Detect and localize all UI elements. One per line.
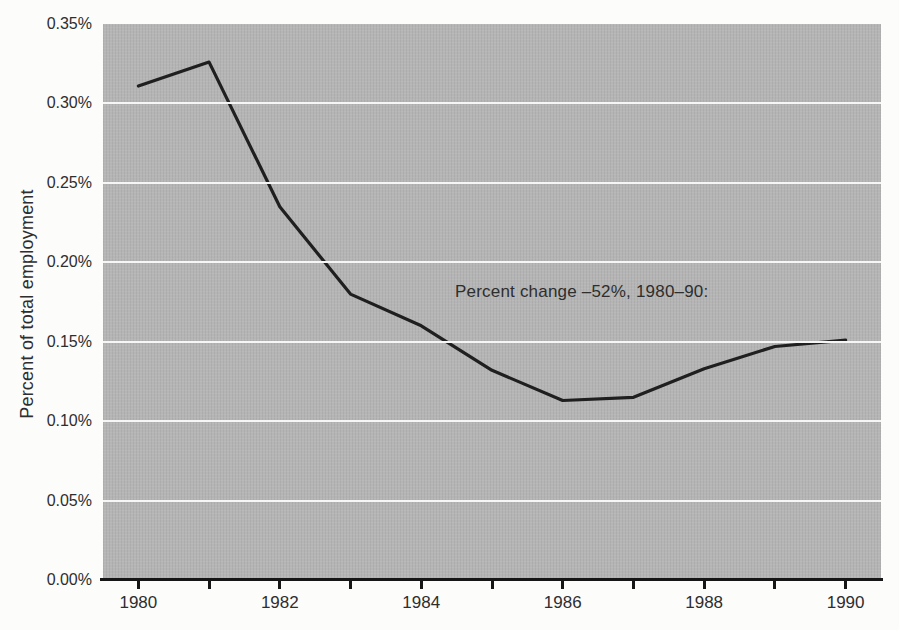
- y-tick-label: 0.00%: [30, 571, 92, 589]
- gridline: [103, 182, 881, 184]
- x-tick-label: 1986: [531, 594, 595, 612]
- x-tick: [561, 581, 564, 589]
- data-line-svg: [103, 24, 881, 580]
- x-tick: [491, 581, 494, 589]
- x-tick: [137, 581, 140, 589]
- x-tick: [349, 581, 352, 589]
- y-axis-title: Percent of total employment: [17, 189, 38, 419]
- gridline: [103, 500, 881, 502]
- x-tick: [632, 581, 635, 589]
- x-tick: [703, 581, 706, 589]
- x-tick-label: 1988: [672, 594, 736, 612]
- x-tick: [208, 581, 211, 589]
- y-tick-label: 0.15%: [30, 333, 92, 351]
- gridline: [103, 420, 881, 422]
- gridline: [103, 102, 881, 104]
- annotation-percent-change: Percent change –52%, 1980–90:: [455, 282, 708, 302]
- data-line: [138, 62, 845, 400]
- gridline: [103, 261, 881, 263]
- gridline: [103, 341, 881, 343]
- x-tick: [420, 581, 423, 589]
- x-tick-label: 1990: [814, 594, 878, 612]
- y-tick-label: 0.30%: [30, 94, 92, 112]
- y-tick-label: 0.05%: [30, 492, 92, 510]
- chart-figure: Percent of total employment Percent chan…: [0, 0, 899, 630]
- y-tick-label: 0.25%: [30, 174, 92, 192]
- y-tick-label: 0.20%: [30, 253, 92, 271]
- x-tick-label: 1982: [248, 594, 312, 612]
- x-tick-label: 1980: [106, 594, 170, 612]
- x-tick: [844, 581, 847, 589]
- x-tick-label: 1984: [389, 594, 453, 612]
- y-tick-label: 0.10%: [30, 412, 92, 430]
- plot-area: Percent change –52%, 1980–90:: [103, 24, 881, 580]
- x-tick: [278, 581, 281, 589]
- y-tick-label: 0.35%: [30, 15, 92, 33]
- x-tick: [773, 581, 776, 589]
